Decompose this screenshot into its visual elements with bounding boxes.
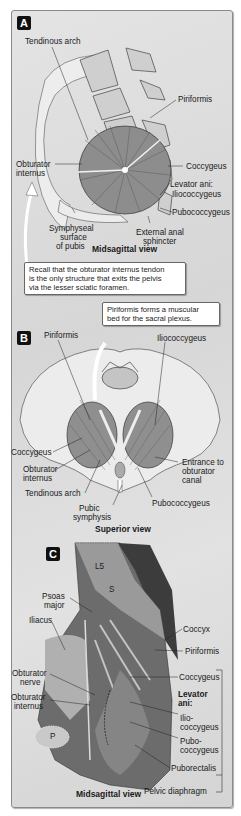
view-title-a: Midsagittal view (92, 244, 157, 254)
callout-b-line-2: bed for the sacral plexus. (107, 314, 215, 323)
label-external-anal-1: External anal (136, 228, 184, 237)
label-psoas-1: Psoas (42, 592, 65, 601)
label-entrance-obturator-3: canal (182, 476, 202, 485)
label-obturator-nerve-2: nerve (20, 678, 40, 687)
label-symphyseal-1: Symphyseal (49, 224, 94, 233)
callout-a-line-2: is the only structure that exits the pel… (29, 274, 181, 283)
label-p: P (50, 732, 55, 741)
label-pubococcygeus-b: Pubococcygeus (152, 499, 210, 508)
view-title-c: Midsagittal view (76, 789, 141, 799)
label-obturator-internus-c-2: internus (14, 702, 43, 711)
label-symphyseal-3: of pubis (56, 242, 85, 251)
label-obturator-internus-a-2: internus (16, 169, 45, 178)
label-iliococcygeus-b: Iliococcygeus (157, 334, 206, 343)
panel-badge-c: C (46, 547, 60, 561)
label-iliococcygeus-a: Iliococcygeus (172, 190, 221, 199)
label-iliococcygeus-c-1: Ilio- (180, 714, 193, 723)
label-psoas-2: major (44, 601, 64, 610)
label-obturator-internus-b-2: internus (23, 474, 52, 483)
callout-piriformis: Piriformis forms a muscular bed for the … (102, 302, 220, 326)
panel-badge-a: A (17, 16, 31, 30)
label-iliococcygeus-c-2: coccygeus (180, 723, 219, 732)
label-pubic-symphysis-1: Pubic (79, 504, 99, 513)
callout-a-line-1: Recall that the obturator internus tendo… (29, 265, 181, 274)
label-coccygeus-c: Coccygeus (179, 673, 220, 682)
label-coccyx: Coccyx (183, 625, 210, 634)
view-title-b: Superior view (95, 524, 151, 534)
label-tendinous-arch-a: Tendinous arch (25, 37, 81, 46)
label-coccygeus-b: Coccygeus (11, 448, 52, 457)
label-puborectalis: Puborectalis (171, 764, 216, 773)
label-pelvic-diaphragm: Pelvic diaphragm (144, 787, 207, 796)
label-tendinous-arch-b: Tendinous arch (25, 489, 81, 498)
label-piriformis-b: Piriformis (44, 331, 78, 340)
label-entrance-obturator-1: Entrance to (182, 458, 224, 467)
label-obturator-internus-c-1: Obturator (11, 693, 46, 702)
label-obturator-internus-a-1: Obturator (16, 160, 51, 169)
callout-obturator-internus: Recall that the obturator internus tendo… (24, 262, 186, 295)
label-piriformis-c: Piriformis (185, 647, 219, 656)
label-levator-ani-c-2: ani: (178, 699, 193, 708)
label-pubococcygeus-c-2: coccygeus (180, 746, 219, 755)
label-levator-ani-c-1: Levator (178, 690, 208, 699)
label-s: S (109, 585, 114, 594)
label-symphyseal-2: surface (60, 233, 87, 242)
label-pubococcygeus-c-1: Pubo- (180, 737, 202, 746)
callout-a-line-3: via the lesser sciatic foramen. (29, 283, 181, 292)
label-entrance-obturator-2: obturator (182, 467, 215, 476)
label-levator-ani-a: Levator ani: (170, 180, 213, 189)
label-obturator-nerve-1: Obturator (12, 669, 47, 678)
label-pubic-symphysis-2: symphysis (73, 513, 111, 522)
label-obturator-internus-b-1: Obturator (23, 465, 58, 474)
label-piriformis-a: Piriformis (178, 95, 212, 104)
label-pubococcygeus-a: Pubococcygeus (172, 208, 230, 217)
panel-badge-b: B (17, 331, 31, 345)
label-iliacus: Iliacus (29, 616, 52, 625)
callout-b-line-1: Piriformis forms a muscular (107, 305, 215, 314)
label-l5: L5 (95, 562, 104, 571)
label-coccygeus-a: Coccygeus (186, 162, 227, 171)
